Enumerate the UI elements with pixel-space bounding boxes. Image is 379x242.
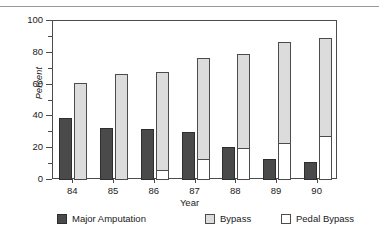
legend-swatch-pedal: [281, 214, 291, 224]
x-tick-label: 86: [134, 185, 174, 196]
bar-pedal-bypass: [237, 148, 250, 180]
legend-swatch-bypass: [205, 214, 215, 224]
x-tick: [317, 179, 318, 183]
bar-major-amputation: [100, 128, 113, 180]
bar-bypass: [74, 83, 87, 180]
bar-major-amputation: [304, 162, 317, 180]
y-tick-label: 60: [0, 79, 43, 88]
legend-label: Pedal Bypass: [296, 213, 354, 224]
y-tick-label: 40: [0, 110, 43, 119]
bar-bypass: [156, 72, 169, 180]
y-tick-label: 100: [0, 15, 43, 24]
legend-item: Bypass: [205, 213, 251, 224]
bar-major-amputation: [263, 159, 276, 180]
x-tick-label: 90: [297, 185, 337, 196]
bar-pedal-bypass: [197, 159, 210, 180]
x-tick-label: 88: [215, 185, 255, 196]
x-tick-label: 84: [52, 185, 92, 196]
y-tick-label: 20: [0, 142, 43, 151]
legend-item: Major Amputation: [57, 213, 146, 224]
y-tick-label: 0: [0, 174, 43, 183]
x-tick: [154, 179, 155, 183]
bar-pedal-bypass: [278, 143, 291, 180]
bar-major-amputation: [182, 132, 195, 180]
bar-major-amputation: [59, 118, 72, 180]
y-tick-label: 80: [0, 47, 43, 56]
x-tick-label: 89: [256, 185, 296, 196]
bar-pedal-bypass: [319, 136, 332, 180]
y-tick-major: [46, 179, 52, 180]
x-tick: [195, 179, 196, 183]
x-tick: [235, 179, 236, 183]
x-tick-label: 85: [93, 185, 133, 196]
chart-figure: Percent 020406080100 84858687888990 Year…: [0, 0, 379, 242]
x-tick: [276, 179, 277, 183]
x-axis-label: Year: [0, 197, 379, 208]
chart-legend: Major AmputationBypassPedal Bypass: [0, 213, 379, 229]
legend-label: Bypass: [220, 213, 251, 224]
legend-item: Pedal Bypass: [281, 213, 354, 224]
bar-pedal-bypass: [156, 170, 169, 180]
bar-major-amputation: [141, 129, 154, 180]
bar-bypass: [115, 74, 128, 180]
bar-major-amputation: [222, 147, 235, 180]
plot-area: [52, 20, 337, 179]
legend-label: Major Amputation: [72, 213, 146, 224]
top-divider-rule: [0, 6, 379, 7]
x-tick: [113, 179, 114, 183]
legend-swatch-amputation: [57, 214, 67, 224]
x-tick-label: 87: [175, 185, 215, 196]
x-tick: [72, 179, 73, 183]
